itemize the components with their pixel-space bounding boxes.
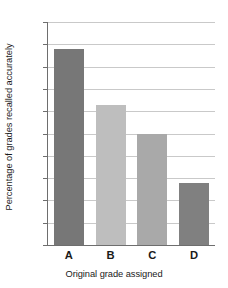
x-axis-tick-label-a: A — [49, 249, 89, 262]
y-axis-tick-mark — [43, 156, 48, 157]
x-axis-tick-label-d: D — [174, 249, 214, 262]
y-axis-tick-mark — [43, 111, 48, 112]
x-axis-tick-label-c: C — [132, 249, 172, 262]
y-axis-tick-mark — [43, 22, 48, 23]
y-axis-tick-mark — [43, 245, 48, 246]
y-axis-title: Percentage of grades recalled accurately — [2, 4, 16, 250]
y-axis-tick-mark — [43, 134, 48, 135]
y-axis-tick-mark — [43, 200, 48, 201]
bar-d — [179, 183, 209, 245]
y-axis-tick-mark — [43, 44, 48, 45]
y-axis-tick-mark — [43, 178, 48, 179]
plot-area — [48, 22, 215, 245]
gridline — [48, 245, 215, 246]
y-axis-tick-mark — [43, 223, 48, 224]
gridline — [48, 44, 215, 45]
y-axis-tick-mark — [43, 89, 48, 90]
bar-chart-figure: Percentage of grades recalled accurately… — [0, 0, 228, 288]
bar-c — [137, 134, 167, 246]
x-axis-tick-label-b: B — [91, 249, 131, 262]
y-axis-tick-mark — [43, 67, 48, 68]
bar-a — [54, 49, 84, 245]
gridline — [48, 22, 215, 23]
x-axis-title: Original grade assigned — [0, 268, 228, 280]
bar-b — [96, 105, 126, 245]
